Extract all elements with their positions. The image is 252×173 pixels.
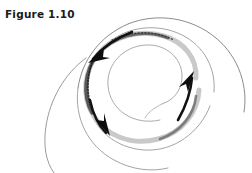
outer-spiral-group (77, 18, 245, 170)
outer-spiral-path (78, 18, 245, 112)
figure-container: Figure 1.10 (0, 0, 252, 173)
inner-hook-group (108, 45, 182, 121)
inner-hook-tip-path (145, 104, 162, 118)
spiral-diagram (0, 0, 252, 173)
inner-hook-path (108, 45, 182, 121)
